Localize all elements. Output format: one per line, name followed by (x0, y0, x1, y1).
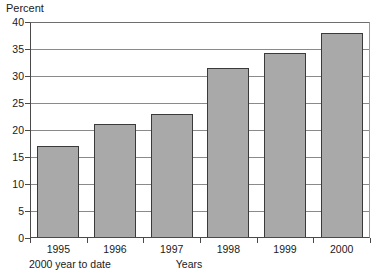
x-axis-category-label: 2000 (313, 243, 370, 255)
y-axis-tick (25, 49, 30, 50)
y-axis-tick-label: 10 (0, 179, 24, 190)
plot-area: 0510152025303540 (30, 22, 370, 238)
bar (94, 124, 136, 238)
x-axis-category-label: 1996 (87, 243, 144, 255)
gridline (30, 103, 370, 104)
x-axis-category-label: 1999 (257, 243, 314, 255)
y-axis-tick (25, 211, 30, 212)
y-axis-tick-label: 5 (0, 206, 24, 217)
bar (151, 114, 193, 238)
y-axis-tick-label: 0 (0, 233, 24, 244)
y-axis-title: Percent (6, 2, 44, 14)
bar-chart-figure: Percent 0510152025303540 199519961997199… (0, 0, 378, 275)
x-axis-category-label: 1995 (30, 243, 87, 255)
y-axis-tick (25, 130, 30, 131)
y-axis-tick-label: 25 (0, 98, 24, 109)
gridline (30, 184, 370, 185)
x-axis-tick (370, 238, 371, 243)
y-axis-tick (25, 22, 30, 23)
chart-footnote: 2000 year to date (29, 258, 111, 270)
gridline (30, 49, 370, 50)
y-axis-tick-label: 15 (0, 152, 24, 163)
y-axis-tick (25, 76, 30, 77)
y-axis-tick (25, 157, 30, 158)
bar (207, 68, 249, 238)
bar (264, 53, 306, 238)
y-axis-tick-label: 40 (0, 17, 24, 28)
x-axis-category-label: 1997 (143, 243, 200, 255)
y-axis-tick (25, 184, 30, 185)
x-axis-category-label: 1998 (200, 243, 257, 255)
y-axis-tick-label: 35 (0, 44, 24, 55)
y-axis-tick-label: 30 (0, 71, 24, 82)
gridline (30, 211, 370, 212)
y-axis-tick-label: 20 (0, 125, 24, 136)
gridline (30, 157, 370, 158)
gridline (30, 76, 370, 77)
gridline (30, 130, 370, 131)
bar (321, 33, 363, 238)
y-axis-tick (25, 103, 30, 104)
bar (37, 146, 79, 238)
